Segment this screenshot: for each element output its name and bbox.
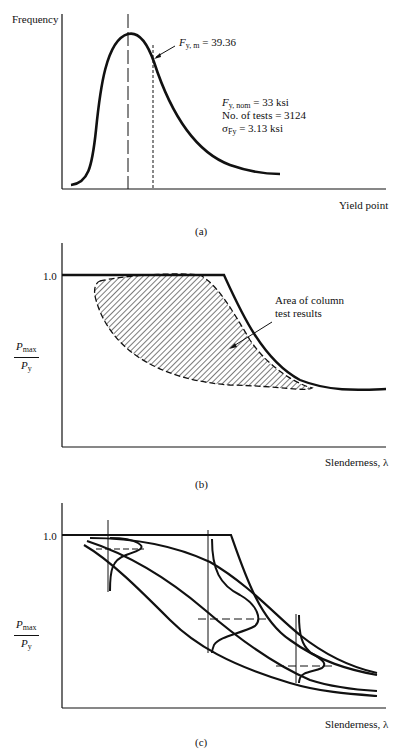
figure-canvas xyxy=(0,0,407,750)
panel-c-chart xyxy=(62,503,386,708)
panel-c-y-label-denominator: Py xyxy=(14,636,39,653)
panel-a-y-label: Frequency xyxy=(12,13,58,25)
std-dev-label: σFy = 3.13 ksi xyxy=(222,122,283,138)
test-count-label: No. of tests = 3124 xyxy=(222,109,306,121)
panel-b-x-label: Slenderness, λ xyxy=(325,456,388,468)
mean-yield-var: F xyxy=(179,36,186,48)
hatched-test-results-area xyxy=(95,274,312,389)
numerator-var: P xyxy=(16,618,23,630)
annotation-line-2: test results xyxy=(275,307,322,319)
panel-b-y-label-numerator: Pmax xyxy=(14,340,39,358)
mean-yield-label: Fy, m = 39.36 xyxy=(179,36,236,52)
panel-b-y-tick: 1.0 xyxy=(43,270,57,282)
panel-b-caption: (b) xyxy=(195,478,208,490)
panel-c-y-tick: 1.0 xyxy=(43,530,57,542)
mean-yield-sub: y, m xyxy=(186,41,200,50)
panel-c-y-label-numerator: Pmax xyxy=(14,618,39,636)
denominator-var: P xyxy=(21,359,28,371)
column-curve-1 xyxy=(90,538,377,673)
panel-b-chart xyxy=(62,243,386,447)
panel-a-x-label: Yield point xyxy=(339,199,388,211)
panel-c-caption: (c) xyxy=(195,736,207,748)
sigma-value: = 3.13 ksi xyxy=(239,122,283,134)
column-curve-2 xyxy=(87,541,377,691)
mean-yield-value: = 39.36 xyxy=(202,36,236,48)
numerator-var: P xyxy=(16,340,23,352)
panel-b-y-label: Pmax Py xyxy=(14,340,39,375)
panel-c-x-label: Slenderness, λ xyxy=(325,718,388,730)
nominal-yield-var: F xyxy=(222,96,229,108)
panel-b-y-label-denominator: Py xyxy=(14,358,39,375)
panel-c-y-label: Pmax Py xyxy=(14,618,39,653)
sigma-sub: Fy xyxy=(228,127,236,136)
annotation-line-1: Area of column xyxy=(275,294,344,306)
distribution-curve-1 xyxy=(110,538,142,591)
denominator-sub: y xyxy=(28,642,32,651)
denominator-sub: y xyxy=(28,364,32,373)
column-curve-3 xyxy=(84,545,377,696)
distribution-curve-2 xyxy=(212,539,258,653)
numerator-sub: max xyxy=(23,345,37,354)
denominator-var: P xyxy=(21,637,28,649)
arrow-head-icon xyxy=(154,53,161,59)
panel-a-caption: (a) xyxy=(195,225,207,237)
numerator-sub: max xyxy=(23,623,37,632)
nominal-yield-value: = 33 ksi xyxy=(253,96,289,108)
